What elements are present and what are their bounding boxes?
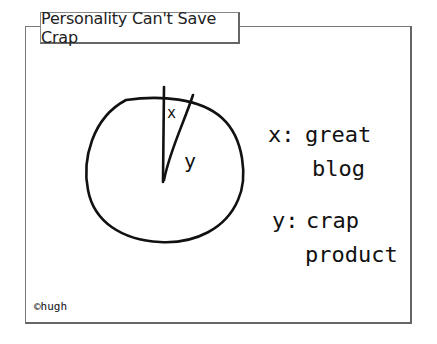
legend-y-line2: product (305, 242, 398, 267)
legend-y-line1: crap (306, 208, 359, 233)
signature: ©hugh (34, 300, 67, 313)
slice-label-x: x (167, 104, 176, 122)
legend-x-line2: blog (312, 156, 365, 181)
pie-drawing: x y x: great blog y: crap product ©hugh (0, 0, 437, 344)
slice-label-y: y (184, 149, 196, 173)
legend-x-line1: great (305, 122, 371, 147)
legend-y-key: y: (272, 208, 299, 233)
slice-line-vertical (163, 87, 164, 182)
legend-x-key: x: (268, 122, 295, 147)
